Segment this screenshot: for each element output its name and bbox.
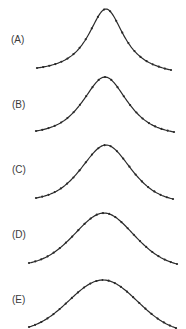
data-point-marker [114, 282, 116, 284]
data-point-marker [97, 16, 99, 18]
data-point-marker [121, 32, 123, 34]
data-point-marker [109, 10, 111, 12]
panel-e: (E) [12, 279, 177, 329]
data-point-marker [132, 296, 134, 298]
peak-curve-e [29, 280, 176, 328]
data-point-marker [116, 150, 118, 152]
data-point-marker [144, 308, 146, 310]
data-point-marker [116, 86, 118, 88]
peak-curve-d [29, 213, 177, 264]
data-point-marker [72, 53, 74, 55]
data-point-marker [164, 67, 166, 69]
data-point-marker [41, 129, 43, 131]
data-point-marker [103, 8, 105, 10]
data-point-marker [147, 186, 149, 188]
data-point-marker [42, 66, 44, 68]
data-point-marker [167, 130, 169, 132]
data-point-marker [46, 317, 48, 319]
data-point-marker [127, 227, 129, 229]
data-point-marker [41, 196, 43, 198]
panel-d: (D) [12, 212, 178, 265]
data-point-marker [170, 69, 172, 71]
data-point-marker [54, 63, 56, 65]
data-point-marker [85, 95, 87, 97]
data-point-marker [71, 297, 73, 299]
data-point-marker [28, 326, 30, 328]
data-point-marker [83, 286, 85, 288]
data-point-marker [97, 147, 99, 149]
panel-label-e: (E) [12, 294, 25, 305]
data-point-marker [159, 194, 161, 196]
data-point-marker [141, 180, 143, 182]
data-point-marker [120, 286, 122, 288]
data-point-marker [110, 145, 112, 147]
data-point-marker [126, 291, 128, 293]
data-point-marker [53, 252, 55, 254]
data-point-marker [91, 86, 93, 88]
data-point-marker [34, 324, 36, 326]
data-point-marker [79, 47, 81, 49]
data-point-marker [160, 128, 162, 130]
data-point-marker [85, 38, 87, 40]
data-point-marker [157, 255, 159, 257]
data-point-marker [73, 111, 75, 113]
data-point-marker [36, 67, 38, 69]
panel-label-b: (B) [12, 99, 25, 110]
data-point-marker [173, 131, 175, 133]
data-point-marker [65, 242, 67, 244]
data-point-marker [120, 221, 122, 223]
data-point-marker [102, 212, 104, 214]
data-point-marker [153, 190, 155, 192]
data-point-marker [54, 125, 56, 127]
data-point-marker [176, 263, 178, 265]
data-point-marker [66, 117, 68, 119]
data-point-marker [85, 161, 87, 163]
data-markers-b [35, 76, 175, 133]
panel-c: (C) [12, 144, 174, 200]
data-point-marker [115, 20, 117, 22]
data-point-marker [114, 216, 116, 218]
data-point-marker [163, 321, 165, 323]
data-point-marker [103, 144, 105, 146]
panel-b: (B) [12, 76, 175, 133]
data-point-marker [77, 229, 79, 231]
data-point-marker [66, 57, 68, 59]
data-point-marker [170, 261, 172, 263]
data-point-marker [169, 324, 171, 326]
data-point-marker [152, 63, 154, 65]
data-point-marker [48, 65, 50, 67]
data-point-marker [60, 187, 62, 189]
data-point-marker [95, 280, 97, 282]
panel-label-c: (C) [12, 164, 26, 175]
data-point-marker [71, 235, 73, 237]
data-point-marker [123, 95, 125, 97]
data-point-marker [98, 79, 100, 81]
data-point-marker [79, 169, 81, 171]
data-point-marker [65, 302, 67, 304]
peak-curve-a [37, 9, 171, 70]
data-point-marker [35, 130, 37, 132]
data-point-marker [96, 214, 98, 216]
data-point-marker [28, 262, 30, 264]
data-point-marker [79, 104, 81, 106]
data-point-marker [164, 258, 166, 260]
data-point-marker [142, 117, 144, 119]
data-point-marker [91, 27, 93, 29]
data-point-marker [90, 217, 92, 219]
data-point-marker [83, 223, 85, 225]
data-point-marker [158, 66, 160, 68]
data-point-marker [145, 246, 147, 248]
data-point-marker [110, 79, 112, 81]
data-point-marker [60, 61, 62, 63]
data-point-marker [34, 260, 36, 262]
data-point-marker [139, 240, 141, 242]
data-point-marker [60, 121, 62, 123]
data-markers-d [28, 212, 178, 265]
peak-curve-c [36, 145, 173, 199]
peak-shape-figure: (A) (B) (C) (D) (E) [0, 0, 186, 329]
data-point-marker [91, 153, 93, 155]
peak-curve-b [36, 77, 174, 132]
data-point-marker [108, 213, 110, 215]
data-point-marker [47, 194, 49, 196]
data-point-marker [128, 166, 130, 168]
